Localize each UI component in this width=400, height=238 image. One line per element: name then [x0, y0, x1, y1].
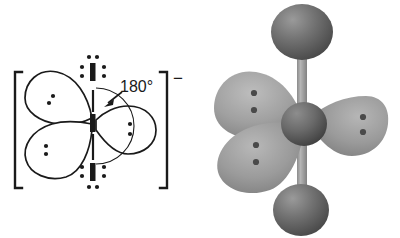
- upper-left-lobe: [25, 71, 92, 124]
- electron-dot: [251, 90, 257, 96]
- electron-dot: [102, 74, 106, 78]
- lewis-structure-panel: −: [0, 0, 200, 238]
- top-iodine-sphere: [271, 4, 333, 60]
- electron-dot: [253, 142, 259, 148]
- electron-dot: [102, 65, 106, 69]
- electron-dot: [80, 74, 84, 78]
- electron-dot: [360, 114, 366, 120]
- lower-left-lobe: [25, 122, 92, 179]
- electron-dot: [360, 129, 366, 135]
- electron-dot: [51, 94, 55, 98]
- electron-dot: [102, 165, 106, 169]
- electron-dot: [251, 107, 257, 113]
- electron-dot: [44, 152, 48, 156]
- right-lobe: [96, 106, 156, 154]
- bracket-left: [15, 72, 22, 188]
- central-iodine-atom: I: [90, 114, 96, 132]
- electron-dot: [128, 132, 132, 136]
- electron-dot: [253, 159, 259, 165]
- electron-dot: [102, 174, 106, 178]
- charge-label: −: [173, 69, 183, 88]
- electron-dot: [128, 122, 132, 126]
- bottom-iodine-sphere: [273, 184, 329, 236]
- electron-dot: [47, 101, 51, 105]
- bracket-right: [160, 72, 167, 188]
- central-iodine-sphere: [281, 102, 327, 146]
- bottom-iodine-atom: I: [80, 163, 106, 189]
- electron-dot: [95, 55, 99, 59]
- lewis-structure-svg: −: [0, 0, 200, 238]
- ball-and-stick-model-svg: [200, 0, 400, 238]
- chemistry-figure: −: [0, 0, 400, 238]
- bond-angle-label: 180°: [120, 78, 153, 95]
- electron-dot: [80, 165, 84, 169]
- electron-dot: [87, 185, 91, 189]
- electron-dot: [44, 144, 48, 148]
- electron-dot: [87, 55, 91, 59]
- ball-and-stick-model-panel: [200, 0, 400, 238]
- electron-dot: [95, 185, 99, 189]
- electron-dot: [80, 174, 84, 178]
- top-iodine-atom: I: [80, 55, 106, 81]
- electron-dot: [80, 65, 84, 69]
